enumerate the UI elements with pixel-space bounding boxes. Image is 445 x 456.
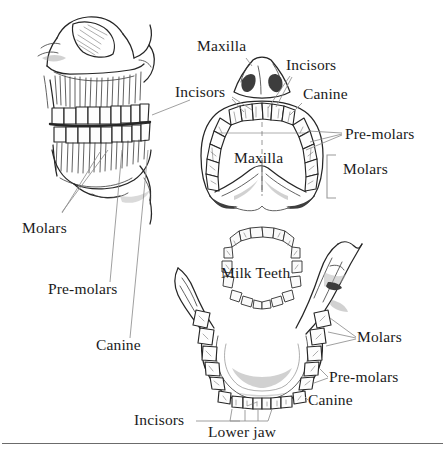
tooth-molar [206,174,219,191]
molars-bracket [327,155,336,198]
tooth-canine [282,106,295,125]
label-molars-left: Molars [22,220,67,236]
label-milk-teeth: Milk Teeth [221,265,290,281]
tooth-incisor [262,103,272,120]
skull-lateral-panel [38,17,154,224]
tooth-molar [307,346,322,361]
label-maxilla-top: Maxilla [197,38,246,54]
label-maxilla-inner: Maxilla [234,150,283,166]
label-pre-molars-left: Pre-molars [48,281,118,297]
tooth-incisor [252,103,263,120]
tooth-incisor [271,397,281,409]
label-molars-upper: Molars [343,161,388,177]
tooth-premolar [205,362,220,376]
label-pre-molars-upper: Pre-molars [345,126,415,142]
label-molars-lower: Molars [357,329,402,345]
upper-tooth-row [52,104,149,124]
tooth-molar [198,328,214,345]
tooth-molar [305,174,318,191]
tooth-incisor [253,398,262,409]
tooth-canine [293,391,306,404]
tooth-incisor [232,396,243,408]
label-lower-jaw: Lower jaw [208,424,276,440]
label-incisors-upper-right: Incisors [286,57,336,73]
tooth-incisor [262,398,271,409]
label-incisors-upper-left: Incisors [175,84,225,100]
tooth-molar [193,310,210,328]
tooth-canine [229,106,242,125]
tooth-canine [218,391,231,404]
footer-divider [2,443,443,444]
dental-anatomy-figure: .ol { fill:none; stroke:#262626; stroke-… [0,0,445,456]
tooth-incisor [281,396,292,408]
label-pre-molars-lower: Pre-molars [329,369,399,385]
tooth-incisor [243,397,253,409]
tooth-molar [202,346,217,361]
label-canine-upper: Canine [303,86,348,102]
label-canine-left: Canine [96,337,141,353]
tooth-molar [310,328,326,345]
label-incisors-lower: Incisors [134,412,184,428]
label-canine-lower: Canine [308,392,353,408]
tooth-molar [314,310,331,328]
tooth-premolar [304,362,319,376]
